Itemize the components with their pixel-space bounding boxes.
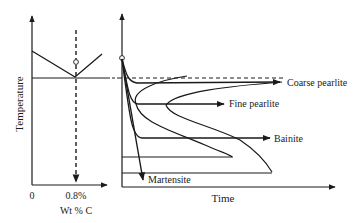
- cooling-path-coarse: [122, 59, 280, 83]
- transformation-finish-curve: [166, 82, 282, 172]
- label-bainite: Bainite: [274, 133, 303, 144]
- phase-diagram: Temperature 0 0.8% Wt % C: [13, 16, 118, 216]
- label-coarse-pearlite: Coarse pearlite: [287, 77, 348, 88]
- eutectoid-curve: [32, 51, 102, 77]
- x-tick-eutectoid: 0.8%: [66, 190, 87, 201]
- x-axis-label-time: Time: [212, 192, 235, 204]
- x-tick-0: 0: [30, 190, 35, 201]
- y-axis-label: Temperature: [13, 76, 25, 132]
- cooling-path-martensite: [122, 59, 143, 180]
- label-fine-pearlite: Fine pearlite: [229, 98, 280, 109]
- label-martensite: Martensite: [148, 174, 191, 185]
- x-axis-label: Wt % C: [60, 205, 93, 216]
- ttt-diagram: Temperature 0 0.8% Wt % C Coarse pearlit…: [0, 0, 355, 223]
- ttt-plot: Coarse pearlite Fine pearlite Bainite Ma…: [118, 14, 348, 204]
- austenite-point-marker: [74, 60, 79, 65]
- cooling-path-fine: [122, 59, 224, 104]
